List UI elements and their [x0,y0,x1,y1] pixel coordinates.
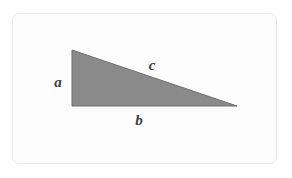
side-label-b: b [129,113,149,128]
triangle-diagram-svg [0,0,292,178]
figure-root: a b c [0,0,292,178]
side-label-c: c [142,58,162,73]
side-label-a: a [48,75,68,90]
